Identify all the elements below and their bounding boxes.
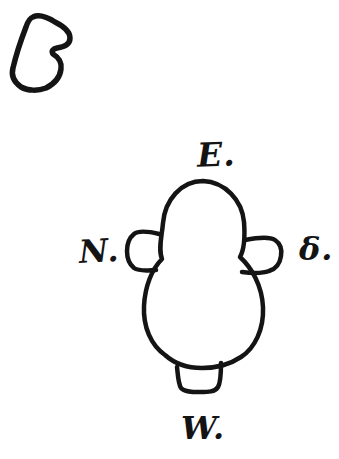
plan-drawing — [0, 0, 339, 459]
label-west: W. — [181, 412, 225, 444]
small-irregular-outline — [12, 16, 70, 90]
label-north: N. — [78, 234, 120, 268]
north-tab — [127, 232, 159, 271]
sketch-page: E. N. δ. W. — [0, 0, 339, 459]
label-south: δ. — [299, 233, 333, 265]
label-east: E. — [196, 137, 236, 171]
